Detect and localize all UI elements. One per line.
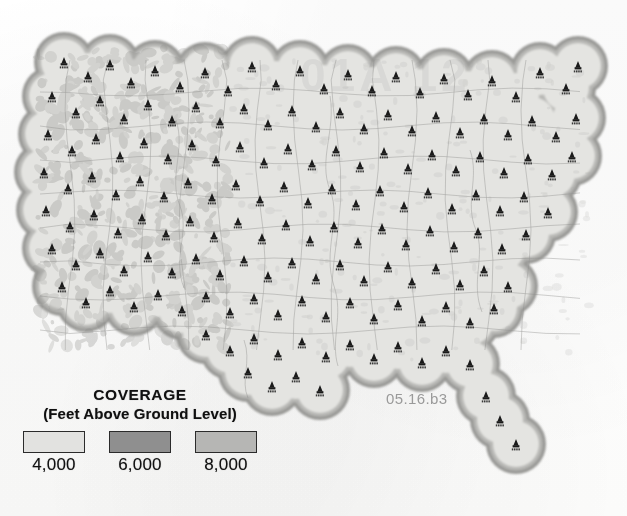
coverage-4000-swatch [23,431,85,453]
legend-label: 6,000 [109,455,171,475]
legend-item-6000: 6,000 [109,431,171,475]
legend-title: COVERAGE [22,386,258,403]
legend-item-8000: 8,000 [195,431,257,475]
legend-swatch-row: 4,0006,0008,000 [22,431,258,475]
coverage-map-figure: 01A 12 05.16.b3 COVERAGE (Feet Above Gro… [0,0,627,516]
legend-label: 8,000 [195,455,257,475]
figure-id-watermark: 05.16.b3 [386,390,448,407]
coverage-8000-swatch [195,431,257,453]
legend-label: 4,000 [23,455,85,475]
coverage-6000-swatch [109,431,171,453]
legend-item-4000: 4,000 [23,431,85,475]
legend-subtitle: (Feet Above Ground Level) [22,404,258,423]
map-legend: COVERAGE (Feet Above Ground Level) 4,000… [22,386,258,475]
